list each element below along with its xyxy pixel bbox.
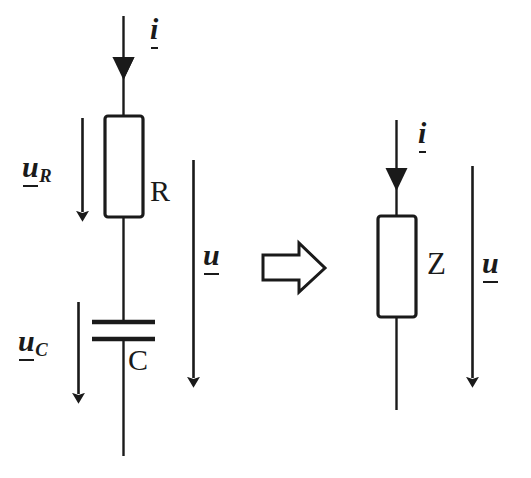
label-current-left: i xyxy=(150,14,158,44)
label-voltage-total-right: u xyxy=(482,248,499,278)
component-letter-capacitor: C xyxy=(128,343,148,376)
right-circuit-group xyxy=(378,120,473,410)
circuit-schematic-canvas xyxy=(0,0,531,478)
voltage-symbol-capacitor: u xyxy=(18,326,35,356)
right-current-arrowhead xyxy=(386,168,408,191)
resistor-symbol xyxy=(105,116,143,217)
voltage-symbol-total-left: u xyxy=(203,240,220,270)
current-symbol-left: i xyxy=(150,14,158,44)
label-component-resistor: R xyxy=(150,176,170,206)
implication-arrow-right-icon xyxy=(263,243,325,292)
circuit-diagram: i uR R uC C u i Z u xyxy=(0,0,531,478)
voltage-symbol-resistor: u xyxy=(22,152,39,182)
label-voltage-resistor: uR xyxy=(22,152,52,186)
label-current-right: i xyxy=(418,118,426,148)
component-letter-impedance: Z xyxy=(427,246,446,281)
voltage-symbol-total-right: u xyxy=(482,248,499,278)
label-voltage-total-left: u xyxy=(203,240,220,270)
label-component-impedance: Z xyxy=(427,248,446,279)
component-letter-resistor: R xyxy=(150,174,170,207)
current-symbol-right: i xyxy=(418,118,426,148)
label-component-capacitor: C xyxy=(128,345,148,375)
label-voltage-capacitor: uC xyxy=(18,326,48,360)
voltage-subscript-resistor: R xyxy=(39,167,51,186)
voltage-subscript-capacitor: C xyxy=(35,341,47,360)
left-circuit-group xyxy=(79,16,194,456)
impedance-symbol xyxy=(378,216,416,317)
